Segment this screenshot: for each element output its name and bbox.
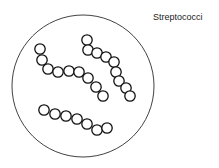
coccus — [72, 114, 82, 124]
chain-upper-right — [82, 35, 135, 101]
coccus — [74, 67, 84, 77]
coccus — [82, 35, 92, 45]
coccus — [98, 91, 108, 101]
coccus — [37, 55, 47, 65]
streptococci-diagram — [0, 0, 219, 168]
coccus — [109, 57, 119, 67]
coccus — [64, 66, 74, 76]
coccus — [83, 73, 93, 83]
coccus — [39, 105, 49, 115]
chain-lower — [39, 105, 112, 135]
coccus — [50, 109, 60, 119]
coccus — [35, 44, 45, 54]
coccus — [102, 123, 112, 133]
coccus — [92, 125, 102, 135]
coccus — [82, 119, 92, 129]
coccus — [61, 111, 71, 121]
coccus — [43, 64, 53, 74]
coccus — [125, 91, 135, 101]
coccus — [91, 82, 101, 92]
coccus — [53, 67, 63, 77]
diagram-title: Streptococci — [153, 12, 203, 22]
